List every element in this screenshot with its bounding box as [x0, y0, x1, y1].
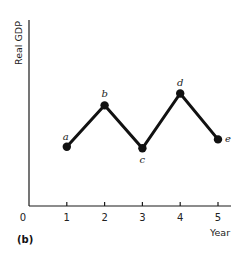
data-point — [100, 101, 108, 109]
data-point — [214, 135, 222, 143]
data-point — [138, 144, 146, 152]
data-point — [63, 143, 71, 151]
x-tick-label: 3 — [139, 212, 145, 223]
data-point-label: e — [225, 133, 231, 144]
data-point — [176, 89, 184, 97]
y-axis-label: Real GDP — [13, 21, 24, 65]
x-tick-label: 2 — [101, 212, 107, 223]
chart: Real GDP 0 12345 abcde Year (b) — [0, 0, 245, 256]
panel-label: (b) — [17, 234, 33, 245]
data-point-label: d — [177, 77, 183, 88]
data-point-label: c — [140, 154, 146, 165]
data-point-label: b — [101, 88, 107, 99]
origin-label: 0 — [20, 212, 26, 223]
x-tick-label: 4 — [177, 212, 183, 223]
series-line — [67, 94, 218, 149]
x-axis-label: Year — [209, 227, 230, 238]
x-tick-label: 1 — [64, 212, 70, 223]
x-tick-label: 5 — [215, 212, 221, 223]
data-point-label: a — [63, 131, 69, 142]
